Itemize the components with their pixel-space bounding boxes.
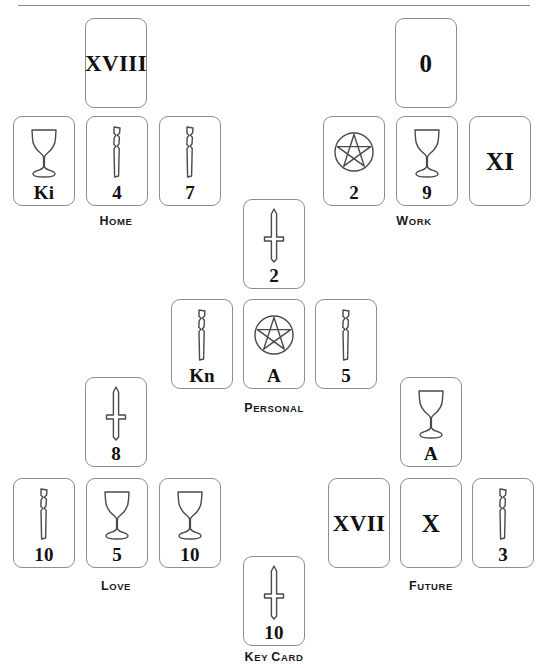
header-divider	[18, 5, 530, 6]
card-love-middle[interactable]: 5	[86, 478, 148, 568]
wand-icon	[473, 486, 533, 544]
card-key-card[interactable]: 10	[243, 556, 305, 646]
sword-icon	[86, 385, 146, 443]
wand-icon	[87, 124, 147, 182]
card-work-right[interactable]: XI	[469, 116, 531, 206]
card-rank: Kn	[189, 366, 215, 385]
card-home-top[interactable]: XVIII	[85, 18, 147, 108]
cup-icon	[160, 486, 220, 544]
wand-icon	[14, 486, 74, 544]
pentacle-icon	[244, 307, 304, 365]
cup-icon	[14, 124, 74, 182]
card-rank: 10	[264, 623, 283, 642]
wand-icon	[172, 307, 232, 365]
card-future-right[interactable]: 3	[472, 478, 534, 568]
card-rank: A	[267, 366, 281, 385]
card-rank: 3	[498, 545, 508, 564]
card-rank: A	[424, 444, 438, 463]
card-rank: 7	[185, 183, 195, 202]
card-personal-right[interactable]: 5	[315, 299, 377, 389]
card-rank: XVIII	[85, 51, 147, 76]
sword-icon	[244, 564, 304, 622]
cup-icon	[87, 486, 147, 544]
card-home-left[interactable]: Ki	[13, 116, 75, 206]
cup-icon	[401, 385, 461, 443]
card-personal-left[interactable]: Kn	[171, 299, 233, 389]
card-love-top[interactable]: 8	[85, 377, 147, 467]
card-home-middle[interactable]: 4	[86, 116, 148, 206]
card-rank: 10	[34, 545, 53, 564]
card-rank: 5	[112, 545, 122, 564]
card-work-middle[interactable]: 9	[396, 116, 458, 206]
card-future-left[interactable]: XVII	[328, 478, 390, 568]
sword-icon	[244, 207, 304, 265]
card-rank: 9	[422, 183, 432, 202]
card-work-top[interactable]: 0	[395, 18, 457, 108]
card-rank: 0	[420, 51, 433, 76]
card-rank: XI	[486, 149, 515, 174]
card-rank: 8	[111, 444, 121, 463]
card-personal-top[interactable]: 2	[243, 199, 305, 289]
card-future-top[interactable]: A	[400, 377, 462, 467]
card-personal-middle[interactable]: A	[243, 299, 305, 389]
card-home-right[interactable]: 7	[159, 116, 221, 206]
card-future-middle[interactable]: X	[400, 478, 462, 568]
card-rank: 5	[341, 366, 351, 385]
card-rank: 4	[112, 183, 122, 202]
tarot-spread-diagram: XVIIIKi47HOME029XIWORK2KnA5PERSONAL81051…	[0, 0, 548, 668]
cup-icon	[397, 124, 457, 182]
card-rank: 10	[180, 545, 199, 564]
card-rank: 2	[269, 266, 279, 285]
pentacle-icon	[324, 124, 384, 182]
card-rank: Ki	[34, 183, 54, 202]
card-rank: XVII	[333, 511, 386, 536]
card-love-left[interactable]: 10	[13, 478, 75, 568]
card-work-left[interactable]: 2	[323, 116, 385, 206]
wand-icon	[316, 307, 376, 365]
card-love-right[interactable]: 10	[159, 478, 221, 568]
wand-icon	[160, 124, 220, 182]
card-rank: 2	[349, 183, 359, 202]
card-rank: X	[422, 511, 440, 536]
